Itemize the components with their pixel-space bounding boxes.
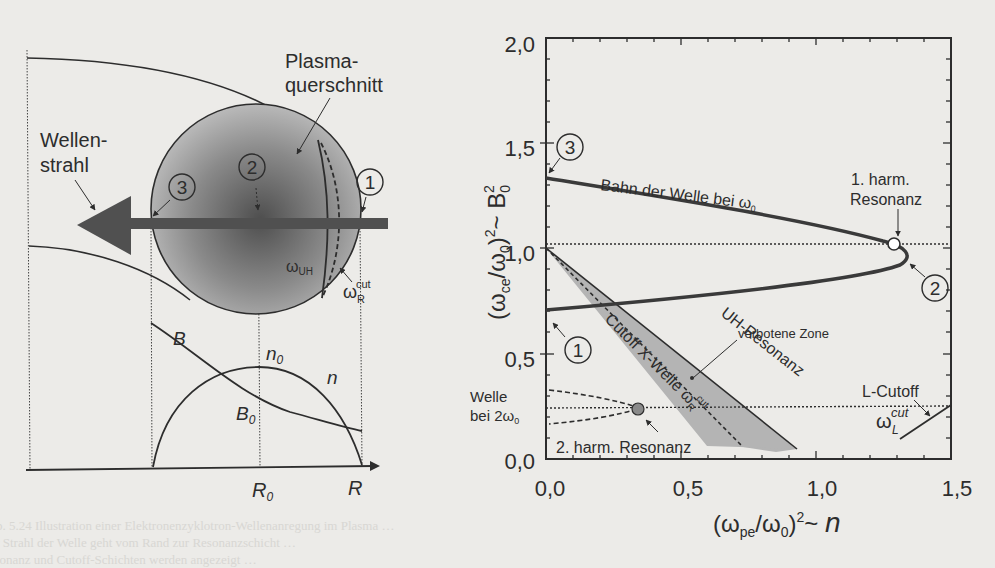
verbotene-zone-pointer	[693, 340, 737, 378]
svg-text:L: L	[892, 423, 899, 437]
first-harmonic-point	[888, 238, 900, 250]
plasma-cross-section	[151, 104, 361, 314]
omega-r-cut-label: ω cut R	[340, 268, 371, 305]
svg-text:ω: ω	[343, 282, 357, 302]
guide-line-left-edge	[27, 50, 30, 470]
label-omega-l-cut: ω cut L	[876, 405, 910, 437]
label-harm1-line-2: Resonanz	[850, 191, 922, 208]
label-b: B	[173, 328, 186, 349]
svg-text:1,5: 1,5	[504, 136, 535, 161]
label-harm2: 2. harm. Resonanz	[556, 439, 691, 456]
svg-text:2,0: 2,0	[504, 32, 535, 57]
svg-text:1,5: 1,5	[942, 476, 973, 501]
figure-canvas: Plasma- querschnitt Wellen- strahl 3 2 1…	[0, 0, 995, 568]
label-b0: B0	[236, 403, 256, 427]
svg-text:1,0: 1,0	[807, 476, 838, 501]
l-cutoff-pointer	[914, 400, 930, 416]
svg-text:2: 2	[247, 157, 258, 178]
svg-text:3: 3	[565, 137, 576, 158]
label-n0: n0	[266, 343, 284, 367]
svg-text:1: 1	[573, 340, 584, 361]
x-tick-labels: 0,0 0,5 1,0 1,5	[535, 476, 973, 501]
svg-text:0,0: 0,0	[504, 449, 535, 474]
plasma-title-line-1: Plasma-	[285, 50, 358, 72]
left-figure: Plasma- querschnitt Wellen- strahl 3 2 1…	[26, 50, 388, 504]
label-verbotene-zone: verbotene Zone	[738, 326, 829, 341]
svg-text:2: 2	[930, 278, 941, 299]
axis-label-r: R	[348, 477, 362, 499]
label-l-cutoff: L-Cutoff	[862, 383, 919, 400]
x-axis-title: (ωpe/ω0)2~ n	[713, 507, 841, 540]
radial-axis-arrowhead	[370, 461, 380, 471]
label-harm1-line-1: 1. harm.	[851, 171, 910, 188]
label-welle-2w-line-2: bei 2ω0	[470, 407, 519, 426]
svg-text:0,5: 0,5	[504, 347, 535, 372]
radial-axis	[26, 466, 374, 470]
label-welle-2w-line-1: Welle	[470, 388, 507, 405]
chart-marker-1: 1	[553, 323, 591, 363]
svg-text:1: 1	[365, 172, 376, 193]
verbotene-zone-dot	[690, 376, 694, 380]
guide-line-point-3	[151, 225, 152, 468]
svg-text:cut: cut	[891, 405, 910, 420]
harm2-pointer	[646, 420, 658, 432]
svg-text:3: 3	[177, 177, 188, 198]
wave-beam-shaft	[128, 218, 388, 229]
chart-marker-3: 3	[549, 134, 583, 173]
svg-text:0,0: 0,0	[535, 476, 566, 501]
axis-label-r0: R0	[252, 479, 273, 504]
second-harmonic-point	[632, 403, 644, 415]
y-axis-title: (ωce/ω0)2~ B02	[481, 185, 513, 320]
svg-text:ω: ω	[876, 410, 892, 432]
svg-text:0,5: 0,5	[673, 476, 704, 501]
chart-marker-2: 2	[910, 264, 948, 301]
label-bahn: Bahn der Welle bei ω0	[599, 176, 757, 214]
y-ticks	[540, 38, 951, 438]
label-n: n	[327, 367, 338, 388]
wave-beam-arrowhead	[77, 196, 131, 255]
beam-label-line-2: strahl	[40, 154, 89, 176]
svg-text:cut: cut	[356, 278, 371, 290]
svg-text:R: R	[357, 293, 365, 305]
right-figure-chart: 2,0 1,5 1,0 0,5 0,0 0,0 0,5 1,0 1,5 (ωce…	[470, 32, 972, 540]
label-uh-resonanz: UH-Resonanz	[718, 304, 808, 379]
plasma-title-line-2: querschnitt	[285, 74, 383, 96]
beam-label-pointer	[75, 180, 95, 210]
beam-label-line-1: Wellen-	[40, 129, 107, 151]
